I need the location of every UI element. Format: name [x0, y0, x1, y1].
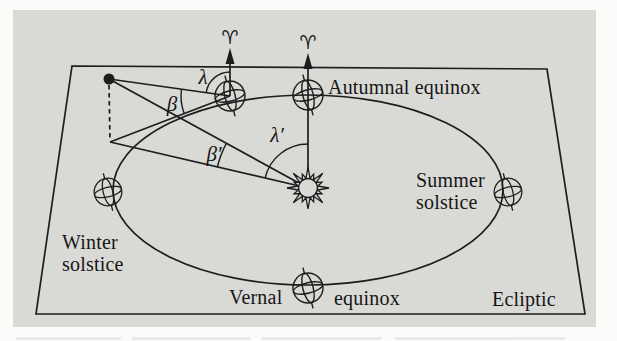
- label-summer-solstice-line2: solstice: [416, 191, 478, 213]
- diagram-canvas: Autumnal equinox Summer solstice Winter …: [0, 0, 617, 341]
- sun-symbol: [287, 167, 329, 209]
- beta-prime-label: β′: [205, 142, 221, 166]
- lambda-prime-label: λ′: [269, 123, 284, 147]
- star-dot: [104, 74, 115, 85]
- lambda-label: λ: [197, 65, 207, 89]
- vernal-equinox-icon-left: ♈: [221, 26, 238, 48]
- sun-disc: [299, 179, 318, 198]
- cropped-caption-marks: [16, 337, 565, 340]
- label-ecliptic: Ecliptic: [492, 288, 556, 311]
- label-winter-solstice-line1: Winter: [62, 231, 118, 253]
- label-summer-solstice-line1: Summer: [416, 169, 485, 191]
- label-autumnal-equinox: Autumnal equinox: [328, 76, 481, 99]
- label-winter-solstice-line2: solstice: [62, 253, 124, 275]
- beta-label: β: [166, 92, 178, 116]
- figure-background-panel: [13, 10, 596, 327]
- ecliptic-coordinates-figure: Autumnal equinox Summer solstice Winter …: [0, 0, 617, 341]
- label-vernal: Vernal: [229, 286, 283, 308]
- label-equinox: equinox: [334, 287, 400, 310]
- vernal-equinox-icon-right: ♈: [299, 31, 316, 53]
